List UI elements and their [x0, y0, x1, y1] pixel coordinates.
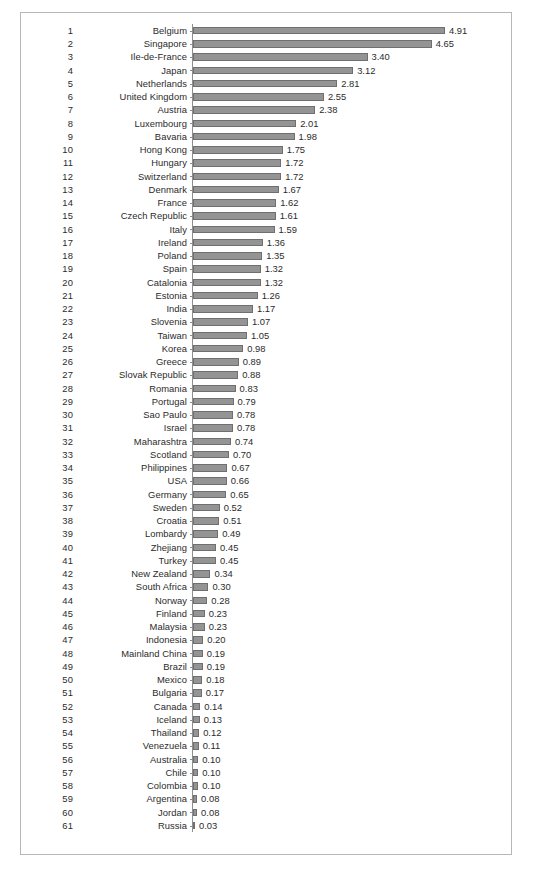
rank-label: 41 [31, 556, 79, 565]
bar-value-label: 4.65 [436, 39, 454, 48]
bar-row: 1Belgium4.91 [31, 24, 503, 37]
bar-row: 34Philippines0.67 [31, 461, 503, 474]
rank-label: 59 [31, 794, 79, 803]
rank-label: 19 [31, 264, 79, 273]
axis-tick [190, 375, 193, 376]
axis-tick [190, 216, 193, 217]
bar [193, 173, 281, 181]
axis-tick [190, 282, 193, 283]
axis-tick [190, 786, 193, 787]
bar [193, 212, 276, 220]
axis-tick [190, 57, 193, 58]
bar-track: 0.23 [192, 620, 503, 633]
bar-row: 10Hong Kong1.75 [31, 143, 503, 156]
bar-row: 36Germany0.65 [31, 488, 503, 501]
category-label: Mainland China [79, 649, 192, 658]
category-label: Korea [79, 344, 192, 353]
bar [193, 239, 263, 247]
axis-tick [190, 256, 193, 257]
category-label: Zhejiang [79, 543, 192, 552]
rank-label: 29 [31, 397, 79, 406]
bar-value-label: 0.28 [211, 596, 229, 605]
bar [193, 676, 202, 684]
axis-tick [190, 309, 193, 310]
category-label: Singapore [79, 39, 192, 48]
bar-value-label: 0.70 [233, 450, 251, 459]
axis-tick [190, 70, 193, 71]
bar-track: 0.28 [192, 594, 503, 607]
category-label: Denmark [79, 185, 192, 194]
rank-label: 35 [31, 476, 79, 485]
category-label: Lombardy [79, 529, 192, 538]
axis-tick [190, 746, 193, 747]
axis-tick [190, 31, 193, 32]
bar [193, 93, 324, 101]
category-label: Poland [79, 251, 192, 260]
bar-value-label: 3.40 [372, 52, 390, 61]
bar-value-label: 0.23 [209, 622, 227, 631]
bar-track: 0.45 [192, 554, 503, 567]
bar-track: 0.11 [192, 740, 503, 753]
rank-label: 20 [31, 278, 79, 287]
bar-track: 1.05 [192, 329, 503, 342]
bar-row: 59Argentina0.08 [31, 793, 503, 806]
bar-track: 0.52 [192, 501, 503, 514]
bar-value-label: 4.91 [449, 26, 467, 35]
axis-tick [190, 150, 193, 151]
bar-track: 0.70 [192, 448, 503, 461]
rank-label: 47 [31, 635, 79, 644]
axis-tick [190, 110, 193, 111]
bar-value-label: 1.67 [283, 185, 301, 194]
bar [193, 451, 229, 459]
axis-tick [190, 428, 193, 429]
bar-row: 41Turkey0.45 [31, 554, 503, 567]
bar-row: 17Ireland1.36 [31, 236, 503, 249]
category-label: Norway [79, 596, 192, 605]
axis-tick [190, 600, 193, 601]
bar-row: 32Maharashtra0.74 [31, 435, 503, 448]
bar-track: 0.78 [192, 408, 503, 421]
axis-tick [190, 494, 193, 495]
bar-value-label: 1.17 [257, 304, 275, 313]
axis-tick [190, 44, 193, 45]
bar-value-label: 1.32 [265, 278, 283, 287]
bar [193, 557, 216, 565]
axis-tick [190, 269, 193, 270]
rank-label: 43 [31, 582, 79, 591]
bar-value-label: 0.98 [247, 344, 265, 353]
category-label: USA [79, 476, 192, 485]
bar-row: 33Scotland0.70 [31, 448, 503, 461]
rank-label: 61 [31, 821, 79, 830]
bar [193, 159, 281, 167]
chart-frame: 1Belgium4.912Singapore4.653Ile-de-France… [20, 12, 512, 855]
axis-tick [190, 640, 193, 641]
category-label: Philippines [79, 463, 192, 472]
category-label: Ile-de-France [79, 52, 192, 61]
rank-label: 3 [31, 52, 79, 61]
bar-track: 0.88 [192, 369, 503, 382]
category-label: Taiwan [79, 331, 192, 340]
bar [193, 756, 198, 764]
axis-tick [190, 521, 193, 522]
bar [193, 40, 432, 48]
bar-row: 6United Kingdom2.55 [31, 90, 503, 103]
rank-label: 21 [31, 291, 79, 300]
bar-value-label: 0.66 [231, 476, 249, 485]
category-label: Belgium [79, 26, 192, 35]
bar-row: 47Indonesia0.20 [31, 634, 503, 647]
category-label: Argentina [79, 794, 192, 803]
bar [193, 689, 202, 697]
category-label: Romania [79, 384, 192, 393]
bar-track: 1.59 [192, 223, 503, 236]
bar-track: 0.10 [192, 779, 503, 792]
bar-row: 20Catalonia1.32 [31, 276, 503, 289]
bar [193, 517, 219, 525]
bar-value-label: 2.81 [341, 79, 359, 88]
bar-track: 4.91 [192, 24, 503, 37]
bar-value-label: 1.35 [266, 251, 284, 260]
bar-row: 42New Zealand0.34 [31, 567, 503, 580]
bar-track: 0.10 [192, 753, 503, 766]
bar-track: 0.98 [192, 342, 503, 355]
category-label: Japan [79, 66, 192, 75]
bar-track: 0.30 [192, 581, 503, 594]
